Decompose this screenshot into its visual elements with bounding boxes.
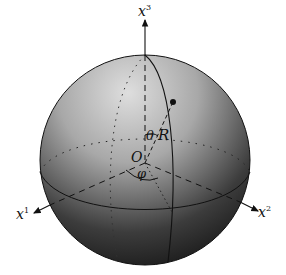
- x1-axis-label: x1: [16, 207, 29, 221]
- origin-label: O: [131, 150, 142, 164]
- radius-label: R: [158, 128, 169, 143]
- x3-label-sup: 3: [146, 3, 151, 12]
- point-on-sphere: [170, 99, 176, 105]
- x3-label-base: x: [138, 3, 146, 19]
- x1-label-base: x: [16, 206, 24, 222]
- sphere-diagram: [0, 0, 286, 275]
- x2-label-sup: 2: [266, 204, 271, 213]
- diagram-canvas: x3 x1 x2 O θ R φ: [0, 0, 286, 275]
- x3-axis-label: x3: [138, 4, 151, 18]
- x2-axis-arrow: [240, 202, 258, 211]
- phi-label: φ: [137, 167, 146, 180]
- x2-label-base: x: [258, 204, 266, 220]
- theta-label: θ: [146, 129, 154, 142]
- x1-label-sup: 1: [24, 206, 29, 215]
- x2-axis-label: x2: [258, 205, 271, 219]
- x1-axis-arrow: [34, 205, 50, 213]
